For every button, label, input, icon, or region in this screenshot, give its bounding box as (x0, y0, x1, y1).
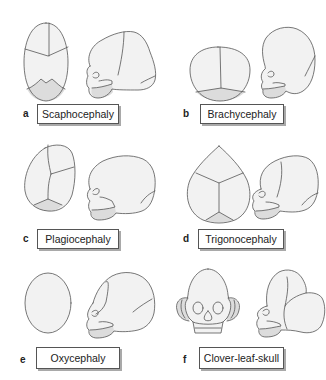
panel-f-clover-leaf-skull: f Clover-leaf-skull (163, 250, 326, 376)
panel-b-brachycephaly: b Brachycephaly (163, 0, 326, 126)
panel-a-scaphocephaly: a Scaphocephaly (0, 0, 163, 126)
panel-label: Scaphocephaly (37, 104, 119, 124)
skull-side-view (87, 31, 156, 98)
panel-label: Plagiocephaly (37, 229, 119, 249)
skull-top-view (187, 146, 250, 223)
panel-d-trigonocephaly: d Trigonocephaly (163, 125, 326, 251)
skull-side-view (257, 270, 325, 337)
skull-side-view (87, 273, 155, 338)
panel-letter: f (183, 354, 186, 365)
skull-top-view (190, 47, 250, 101)
panel-label: Clover-leaf-skull (199, 347, 284, 369)
panel-label: Brachycephaly (200, 104, 284, 124)
skull-front-view (176, 269, 239, 333)
panel-letter: a (23, 108, 29, 119)
panel-e-oxycephaly: e Oxycephaly (0, 250, 163, 376)
skull-side-view (261, 27, 315, 98)
panel-letter: c (23, 233, 29, 244)
panel-letter: e (20, 354, 26, 365)
panel-label: Trigonocephaly (198, 229, 284, 249)
skull-top-view (25, 273, 71, 333)
skull-side-view (87, 156, 155, 220)
skull-side-view (253, 156, 319, 219)
skull-top-view (24, 23, 68, 101)
skull-top-view (25, 145, 75, 211)
panel-letter: d (183, 233, 189, 244)
panel-letter: b (183, 108, 189, 119)
panel-c-plagiocephaly: c Plagiocephaly (0, 125, 163, 251)
panel-label: Oxycephaly (36, 347, 120, 369)
